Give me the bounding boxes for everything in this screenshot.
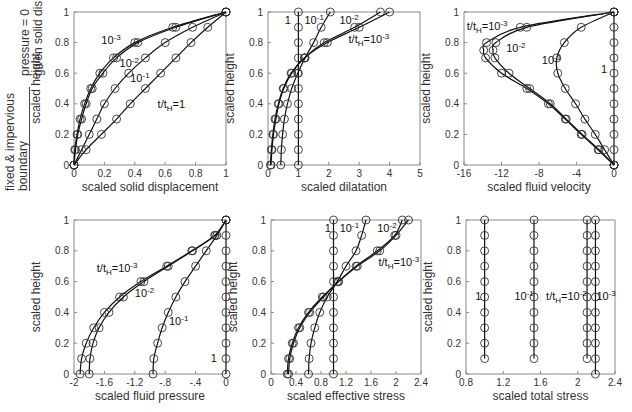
curve-label: 10-2 [120,56,140,69]
y-axis-label: scaled height [419,52,433,123]
y-tick-label: 0.8 [55,245,69,256]
plot-p3: -16-12-8-4000.20.40.60.81scaled fluid ve… [419,7,618,195]
series-t-tH-10-3 [76,216,230,378]
series-1 [610,8,618,169]
x-axis-label: scaled effective stress [287,389,405,403]
y-tick-label: 0.2 [252,338,266,349]
curve-label: t/tH=10-3 [379,255,420,271]
y-axis-label: scaled height [29,52,43,123]
curve-label: 10-3 [101,33,121,46]
x-tick-label: 0.8 [459,377,473,388]
x-tick-label: 0 [265,168,271,179]
x-tick-label: -.4 [190,377,202,388]
x-tick-label: 0 [611,168,617,179]
y-axis-label: scaled height [29,261,43,332]
y-tick-label: 0 [260,369,266,380]
curve-label: t/tH=10-3 [349,32,390,48]
y-tick-label: 0.2 [249,129,263,140]
series-10-1 [277,8,335,169]
y-tick-label: 1 [455,215,461,226]
curve-label: t/tH=1 [158,98,186,113]
x-tick-label: -1.6 [96,377,114,388]
y-tick-label: 0 [257,160,263,171]
curve-label: t/tH=10-3 [97,261,138,277]
x-tick-label: 2 [393,377,399,388]
x-tick-label: 2 [326,168,332,179]
y-tick-label: 0.8 [252,245,266,256]
y-tick-label: 0 [63,369,69,380]
series-t-tH-1 [70,8,230,169]
x-tick-label: 2 [575,377,581,388]
x-tick-label: 0.4 [289,377,303,388]
y-tick-label: 0.6 [447,276,461,287]
x-tick-label: 5 [417,168,423,179]
x-tick-label: 0 [223,377,229,388]
curve-label: 10-1 [169,314,189,327]
y-tick-label: 0.2 [55,129,69,140]
plot-p6: 0.81.21.622.400.20.40.60.81scaled total … [421,215,622,404]
y-tick-label: 0.4 [55,98,69,109]
y-tick-label: 0.6 [55,68,69,79]
x-axis-label: scaled dilatation [301,180,387,194]
y-axis-label: scaled height [223,52,237,123]
series-t-tH-10-3 [283,216,406,378]
x-tick-label: 0.2 [97,168,111,179]
y-tick-label: 0.8 [55,37,69,48]
y-tick-label: 1 [453,7,459,18]
curve-label: t/tH=10-2 [546,289,587,305]
y-tick-label: 0 [455,369,461,380]
y-tick-label: 1 [63,7,69,18]
y-tick-label: 0.4 [249,98,263,109]
y-tick-label: 0.4 [55,307,69,318]
series-10-1 [553,8,618,169]
y-tick-label: 1 [63,215,69,226]
x-tick-label: 0 [268,377,274,388]
y-axis-label: scaled height [421,261,435,332]
curve-label: 10-1 [304,13,324,26]
curve-label: 1 [475,290,481,302]
x-tick-label: 1.2 [339,377,353,388]
plot-p5: 00.40.81.21.622.400.20.40.60.81scaled ef… [226,215,428,404]
x-axis-label: scaled solid displacement [82,180,219,194]
curve-label: 10-2 [135,286,155,299]
x-tick-label: 1.2 [496,377,510,388]
curve-label: 10-2 [506,41,526,54]
x-tick-label: 0.6 [158,168,172,179]
x-tick-label: 0.4 [128,168,142,179]
x-axis-label: scaled total stress [492,389,588,403]
x-axis-label: scaled fluid pressure [95,389,205,403]
plot-p1: 00.20.40.60.8100.20.40.60.81scaled solid… [29,7,230,195]
y-tick-label: 0.2 [447,338,461,349]
figure-canvas: 00.20.40.60.8100.20.40.60.81scaled solid… [0,0,632,412]
x-tick-label: 1 [296,168,302,179]
y-tick-label: 0.4 [447,307,461,318]
x-tick-label: -8 [535,168,544,179]
series-1 [330,216,338,378]
curve-label: 10-1 [340,221,360,234]
series-10-2 [285,216,413,378]
x-tick-label: 0.8 [314,377,328,388]
y-tick-label: 0.4 [445,98,459,109]
y-tick-label: 0.6 [249,68,263,79]
x-tick-label: 1 [223,168,229,179]
curve-label: 1 [325,222,331,234]
curve-label: 1 [285,14,291,26]
x-axis-label: scaled fluid velocity [487,180,590,194]
series-10-3 [70,8,230,169]
y-tick-label: 1 [257,7,263,18]
y-tick-label: 0.4 [252,307,266,318]
x-tick-label: -.8 [159,377,171,388]
x-tick-label: -2 [70,377,79,388]
x-tick-label: 4 [387,168,393,179]
series-10-2 [85,216,230,378]
series-10-2 [70,8,230,169]
series-10-2 [489,8,618,169]
curve-label: 10-1 [542,53,562,66]
plot-p4: -2-1.6-1.2-.8-.4000.20.40.60.81scaled fl… [29,215,230,404]
x-tick-label: 3 [356,168,362,179]
y-tick-label: 1 [260,215,266,226]
series-1 [481,216,489,363]
x-tick-label: -12 [494,168,509,179]
y-tick-label: 0.8 [445,37,459,48]
series-10-1 [70,8,230,169]
